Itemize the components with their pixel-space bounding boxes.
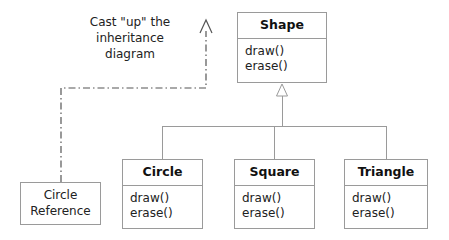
generalization-drop-circle xyxy=(162,126,163,159)
generalization-stem-line xyxy=(282,95,283,126)
class-name-circle: Circle xyxy=(123,160,202,186)
operation-erase: erase() xyxy=(130,206,202,222)
upcast-arrowhead xyxy=(200,20,212,33)
operation-draw: draw() xyxy=(245,44,326,60)
generalization-drop-square xyxy=(274,126,275,159)
class-operations-shape: draw() erase() xyxy=(238,39,326,80)
circle-reference-line-2: Reference xyxy=(30,204,90,220)
operation-erase: erase() xyxy=(242,206,314,222)
operation-erase: erase() xyxy=(245,59,326,75)
note-line-1: Cast "up" the xyxy=(62,14,198,30)
class-box-square[interactable]: Square draw() erase() xyxy=(234,159,315,229)
class-box-circle[interactable]: Circle draw() erase() xyxy=(122,159,203,229)
generalization-drop-triangle xyxy=(386,126,387,159)
cast-annotation-note: Cast "up" the inheritance diagram xyxy=(62,14,198,63)
operation-erase: erase() xyxy=(352,206,427,222)
operation-draw: draw() xyxy=(352,191,427,207)
note-line-3: diagram xyxy=(62,46,198,62)
class-name-triangle: Triangle xyxy=(345,160,427,186)
circle-reference-line-1: Circle xyxy=(44,188,78,204)
circle-reference-box[interactable]: Circle Reference xyxy=(20,182,101,225)
operation-draw: draw() xyxy=(242,191,314,207)
class-operations-square: draw() erase() xyxy=(235,186,314,227)
class-box-shape[interactable]: Shape draw() erase() xyxy=(237,12,327,83)
note-line-2: inheritance xyxy=(62,30,198,46)
class-operations-circle: draw() erase() xyxy=(123,186,202,227)
class-box-triangle[interactable]: Triangle draw() erase() xyxy=(344,159,428,229)
diagram-canvas: Cast "up" the inheritance diagram Shape … xyxy=(0,0,449,240)
class-operations-triangle: draw() erase() xyxy=(345,186,427,227)
operation-draw: draw() xyxy=(130,191,202,207)
class-name-shape: Shape xyxy=(238,13,326,39)
class-name-square: Square xyxy=(235,160,314,186)
